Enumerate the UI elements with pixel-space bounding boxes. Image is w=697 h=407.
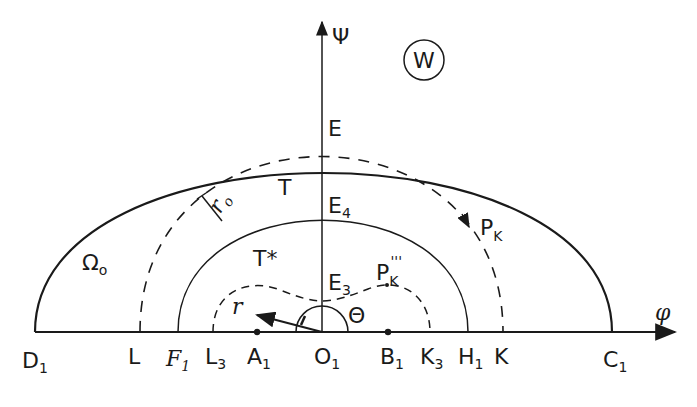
point-b1 bbox=[385, 329, 391, 335]
r-vector bbox=[257, 315, 322, 332]
inner-solid-arc bbox=[178, 220, 468, 332]
point-e-label: E bbox=[328, 116, 342, 141]
point-e3-label: E3 bbox=[328, 270, 351, 298]
pk-arrow bbox=[462, 214, 469, 227]
plane-label: W bbox=[413, 48, 435, 73]
r0-tick bbox=[197, 193, 206, 199]
angle-arrow-tick bbox=[301, 316, 305, 325]
theta-label: Θ bbox=[348, 303, 365, 328]
point-l-label: L bbox=[128, 344, 141, 369]
axis-point-labels: D1 L F1 L3 A1 O1 B1 K3 H1 K C1 bbox=[22, 344, 627, 376]
omega-region-label: Ωo bbox=[82, 250, 107, 278]
point-f1-label: F1 bbox=[165, 346, 190, 374]
point-a1-label: A1 bbox=[247, 344, 271, 372]
pk-curve-label: PK bbox=[480, 215, 503, 244]
point-k3-label: K3 bbox=[420, 344, 443, 372]
t-region-label: T bbox=[277, 175, 292, 200]
point-b1-label: B1 bbox=[380, 344, 404, 372]
point-k-label: K bbox=[494, 344, 509, 369]
point-c1-label: C1 bbox=[603, 347, 627, 375]
psi-axis-label: Ψ bbox=[332, 24, 349, 49]
pk3-curve-label: PK''' bbox=[376, 253, 402, 289]
phi-axis-label: φ bbox=[655, 300, 671, 325]
point-l3-label: L3 bbox=[205, 344, 226, 372]
point-h1-label: H1 bbox=[458, 344, 483, 372]
point-e4-label: E4 bbox=[328, 193, 351, 221]
r0-label: ro bbox=[203, 188, 237, 218]
point-o1-label: O1 bbox=[314, 344, 340, 372]
point-a1 bbox=[254, 329, 260, 335]
diagram-figure: W Ψ φ Ωo T T* E E4 E3 PK PK''' r Θ ro D1… bbox=[0, 0, 697, 407]
point-d1-label: D1 bbox=[22, 348, 48, 376]
r-label: r bbox=[232, 294, 244, 319]
outer-boundary-arc bbox=[35, 173, 612, 332]
t-star-region-label: T* bbox=[252, 246, 277, 271]
